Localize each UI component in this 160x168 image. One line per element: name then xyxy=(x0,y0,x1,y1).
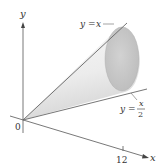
x-axis-arrow-icon xyxy=(142,154,149,159)
svg-text:x: x xyxy=(96,19,101,29)
y-axis-label: y xyxy=(19,8,26,19)
svg-text:x: x xyxy=(139,99,144,108)
y-axis xyxy=(21,22,25,133)
x-axis-label: x xyxy=(150,152,156,163)
x-axis xyxy=(10,116,149,159)
label-y-equals-x-over-2: y = x 2 xyxy=(119,99,145,119)
leader-lower xyxy=(131,93,137,100)
cone-diagram: y x 0 12 y = x y = x 2 xyxy=(0,0,160,168)
origin-label: 0 xyxy=(15,122,21,132)
svg-text:y =: y = xyxy=(79,19,96,29)
cone-base-disc xyxy=(105,27,139,91)
y-axis-arrow-icon xyxy=(21,22,25,28)
svg-text:2: 2 xyxy=(138,110,143,119)
x-tick-label-12: 12 xyxy=(116,155,127,165)
svg-text:y =: y = xyxy=(119,104,136,114)
label-y-equals-x: y = x xyxy=(79,19,101,29)
